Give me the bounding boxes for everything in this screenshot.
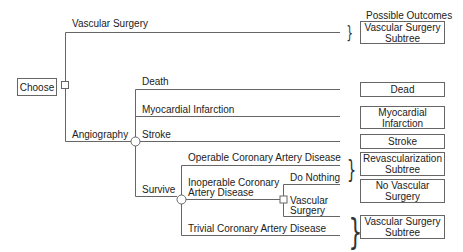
outcomes-title: Possible Outcomes (366, 10, 452, 21)
outcome-text: Vascular Surgery (365, 22, 441, 33)
branch-angiography: Angiography (72, 129, 128, 140)
branch-mi: Myocardial Infarction (142, 104, 234, 115)
outcome-text: Subtree (385, 164, 420, 175)
outcome-stroke: Stroke (360, 134, 445, 149)
decision-node-root (62, 82, 69, 89)
outcome-text: Revascularization (363, 153, 442, 164)
brace-revasc: } (347, 158, 356, 182)
outcome-text: Infarction (382, 118, 423, 129)
outcome-dead: Dead (360, 82, 445, 97)
outcome-text: Dead (391, 84, 415, 95)
branch-vascular-surgery-sub-2: Surgery (290, 205, 325, 216)
outcome-text: No Vascular (376, 180, 430, 191)
brace-vs: } (346, 24, 353, 42)
chance-node-survive (177, 195, 186, 204)
outcome-vascular-surgery-subtree: Vascular Surgery Subtree (360, 21, 445, 44)
choose-box: Choose (17, 78, 57, 96)
branch-vascular-surgery: Vascular Surgery (72, 18, 148, 29)
branch-do-nothing: Do Nothing (290, 172, 340, 183)
branch-survive: Survive (142, 184, 175, 195)
outcome-text: Stroke (388, 136, 417, 147)
outcome-revascularization-subtree: Revascularization Subtree (360, 152, 445, 176)
branch-death: Death (142, 76, 169, 87)
outcome-vascular-surgery-subtree-2: Vascular Surgery Subtree (360, 215, 445, 239)
outcome-text: Myocardial (378, 107, 426, 118)
outcome-text: Subtree (385, 33, 420, 44)
branch-stroke: Stroke (142, 129, 171, 140)
outcome-text: Subtree (385, 227, 420, 238)
outcome-myocardial-infarction: Myocardial Infarction (360, 106, 445, 129)
chance-node-angiography (131, 137, 140, 146)
outcome-no-vascular-surgery: No Vascular Surgery (360, 179, 445, 203)
branch-trivial: Trivial Coronary Artery Disease (188, 223, 326, 234)
decision-node-inoperable (280, 196, 287, 203)
branch-inoperable-2: Artery Disease (188, 187, 254, 198)
branch-operable: Operable Coronary Artery Disease (188, 152, 341, 163)
outcome-text: Surgery (385, 191, 420, 202)
outcome-text: Vascular Surgery (365, 216, 441, 227)
choose-label: Choose (20, 82, 54, 93)
